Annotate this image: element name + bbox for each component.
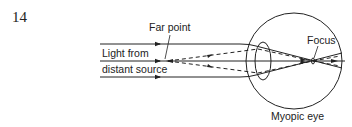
arrow-icon — [331, 59, 338, 63]
far-point-label: Far point — [149, 21, 191, 33]
arrow-icon — [207, 54, 213, 58]
distant-source-label: distant source — [102, 63, 168, 75]
focus-label: Focus — [307, 34, 336, 46]
focus-leader — [314, 46, 318, 58]
myopic-eye-label: Myopic eye — [271, 110, 324, 122]
arrow-icon — [207, 64, 213, 68]
light-from-label: Light from — [102, 47, 149, 59]
far-point-leader — [165, 35, 170, 59]
myopic-eye-diagram: Far point Light from distant source Focu… — [0, 0, 352, 127]
